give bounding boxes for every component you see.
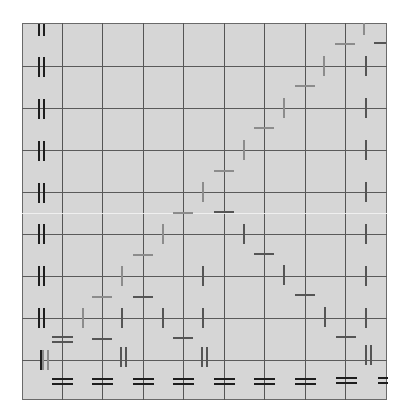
grid-line-horizontal xyxy=(22,234,387,235)
horizontal-mark xyxy=(295,85,315,87)
double-vertical-mark xyxy=(38,308,45,328)
horizontal-mark xyxy=(173,212,193,214)
double-vertical-mark xyxy=(38,57,45,77)
vertical-mark xyxy=(365,56,367,76)
double-vertical-mark xyxy=(38,141,45,161)
vertical-mark xyxy=(323,56,325,76)
double-vertical-mark xyxy=(42,350,49,370)
vertical-mark xyxy=(202,182,204,202)
horizontal-mark xyxy=(295,294,315,296)
vertical-mark xyxy=(324,307,326,327)
double-vertical-mark xyxy=(38,183,45,203)
horizontal-mark xyxy=(133,254,153,256)
vertical-mark xyxy=(365,224,367,244)
double-horizontal-mark xyxy=(336,377,357,384)
vertical-mark xyxy=(243,140,245,160)
vertical-mark xyxy=(82,308,84,328)
vertical-mark xyxy=(121,266,123,286)
vertical-mark xyxy=(363,23,365,35)
horizontal-mark xyxy=(254,127,274,129)
vertical-mark xyxy=(202,266,204,286)
double-vertical-mark xyxy=(201,347,208,367)
double-vertical-mark xyxy=(38,224,45,244)
vertical-mark xyxy=(365,140,367,160)
grid-line-horizontal xyxy=(22,108,387,109)
grid-line-horizontal xyxy=(22,276,387,277)
vertical-mark xyxy=(243,224,245,244)
vertical-mark xyxy=(121,308,123,328)
double-horizontal-mark xyxy=(92,378,113,385)
grid-line-vertical xyxy=(264,23,265,400)
double-horizontal-mark xyxy=(254,378,275,385)
grid-line-vertical xyxy=(102,23,103,400)
double-horizontal-mark xyxy=(214,378,235,385)
horizontal-mark xyxy=(214,211,234,213)
grid-line-horizontal xyxy=(22,318,387,319)
horizontal-mark xyxy=(214,170,234,172)
horizontal-mark xyxy=(92,296,112,298)
vertical-mark xyxy=(283,265,285,285)
double-horizontal-mark xyxy=(295,378,316,385)
grid-line-vertical xyxy=(62,23,63,400)
horizontal-mark xyxy=(254,253,274,255)
grid-line-vertical xyxy=(143,23,144,400)
horizontal-mark xyxy=(173,337,193,339)
scan-glare-line xyxy=(22,213,387,214)
horizontal-mark xyxy=(92,338,112,340)
double-horizontal-mark xyxy=(52,378,73,385)
double-vertical-mark xyxy=(38,99,45,119)
horizontal-mark xyxy=(336,336,356,338)
vertical-mark xyxy=(365,182,367,202)
vertical-mark xyxy=(283,98,285,118)
double-horizontal-mark xyxy=(173,378,194,385)
grid-line-vertical xyxy=(345,23,346,400)
vertical-mark xyxy=(202,308,204,328)
double-vertical-mark xyxy=(120,347,127,367)
puzzle-board xyxy=(22,23,387,400)
vertical-mark xyxy=(162,224,164,244)
grid-line-horizontal xyxy=(22,150,387,151)
horizontal-mark xyxy=(133,296,153,298)
vertical-mark xyxy=(365,266,367,286)
grid-line-vertical xyxy=(305,23,306,400)
vertical-mark xyxy=(365,308,367,328)
horizontal-mark xyxy=(374,42,386,44)
vertical-mark xyxy=(162,308,164,328)
double-vertical-mark xyxy=(365,345,372,365)
horizontal-mark xyxy=(335,43,355,45)
double-vertical-mark xyxy=(38,24,45,36)
double-horizontal-mark xyxy=(378,377,388,384)
double-horizontal-mark xyxy=(133,378,154,385)
grid-line-horizontal xyxy=(22,66,387,67)
double-horizontal-mark xyxy=(52,336,73,343)
vertical-mark xyxy=(365,98,367,118)
grid-line-horizontal xyxy=(22,192,387,193)
double-vertical-mark xyxy=(38,266,45,286)
